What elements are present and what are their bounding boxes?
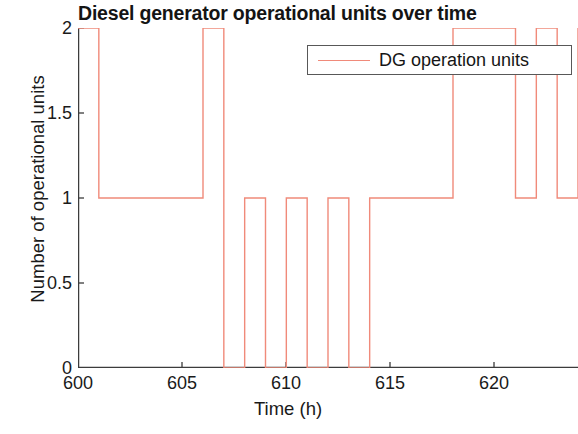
chart-title: Diesel generator operational units over … (78, 2, 578, 25)
x-tick-label-4: 620 (479, 373, 509, 394)
plot-canvas (78, 28, 578, 368)
chart-figure: Diesel generator operational units over … (0, 0, 578, 434)
y-tick-label-3: 1.5 (47, 103, 72, 124)
legend-line-icon (318, 60, 370, 61)
x-axis-label: Time (h) (78, 398, 498, 420)
x-tick-label-1: 605 (167, 373, 197, 394)
chart-legend[interactable]: DG operation units (307, 45, 572, 75)
y-tick-label-1: 0.5 (47, 273, 72, 294)
plot-area: 0 0.5 1 1.5 2 600 605 610 615 620 (78, 28, 578, 368)
x-tick-label-2: 610 (271, 373, 301, 394)
legend-item-label: DG operation units (379, 50, 529, 71)
x-tick-label-3: 615 (375, 373, 405, 394)
x-tick-label-0: 600 (63, 373, 93, 394)
y-tick-label-2: 1 (62, 188, 72, 209)
series-line-dg-operation-units (78, 28, 578, 368)
y-tick-label-4: 2 (62, 18, 72, 39)
y-axis-label: Number of operational units (27, 19, 49, 359)
